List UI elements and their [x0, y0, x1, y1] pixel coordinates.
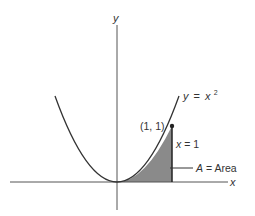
y-axis-label: y: [112, 12, 120, 24]
point-label: (1, 1): [140, 120, 165, 132]
x-axis-label: x: [229, 176, 236, 188]
area-under-parabola-diagram: y x y = x 2 (1, 1) x = 1 A = Area: [0, 0, 255, 216]
curve-label: y = x 2: [182, 89, 218, 102]
vertical-line-label: x = 1: [175, 138, 199, 150]
area-label: A = Area: [195, 162, 237, 174]
point-marker: [170, 124, 174, 128]
